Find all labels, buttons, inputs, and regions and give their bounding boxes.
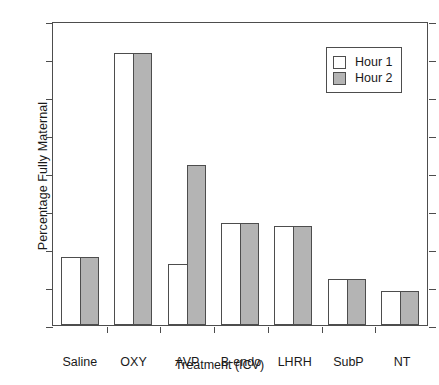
x-tick-4 xyxy=(268,327,269,333)
x-tick-1 xyxy=(107,327,108,333)
bar-subp-hour-1 xyxy=(328,279,347,325)
y-tick-right-70 xyxy=(429,61,436,62)
y-tick-40 xyxy=(46,175,53,176)
y-tick-right-0 xyxy=(429,327,436,328)
bar-group-avp xyxy=(168,23,206,325)
legend-swatch-icon xyxy=(333,72,346,85)
y-tick-50 xyxy=(46,137,53,138)
bar-oxy-hour-1 xyxy=(114,53,133,325)
legend-label: Hour 1 xyxy=(355,55,393,69)
bar-saline-hour-2 xyxy=(80,257,99,325)
bar-b-endo-hour-1 xyxy=(221,223,240,325)
x-tick-6 xyxy=(375,327,376,333)
y-tick-right-80 xyxy=(429,23,436,24)
y-tick-70 xyxy=(46,61,53,62)
y-tick-80 xyxy=(46,23,53,24)
y-tick-right-60 xyxy=(429,99,436,100)
y-tick-right-50 xyxy=(429,137,436,138)
legend-item-hour-1: Hour 1 xyxy=(333,55,393,69)
bar-saline-hour-1 xyxy=(61,257,80,325)
x-tick-3 xyxy=(214,327,215,333)
bar-group-lhrh xyxy=(274,23,312,325)
bar-avp-hour-2 xyxy=(187,165,206,325)
bar-lhrh-hour-1 xyxy=(274,226,293,325)
legend-item-hour-2: Hour 2 xyxy=(333,71,393,85)
y-tick-right-30 xyxy=(429,213,436,214)
y-tick-20 xyxy=(46,251,53,252)
x-tick-5 xyxy=(322,327,323,333)
y-tick-10 xyxy=(46,289,53,290)
legend-label: Hour 2 xyxy=(355,71,393,85)
bar-group-saline xyxy=(61,23,99,325)
y-tick-right-10 xyxy=(429,289,436,290)
x-tick-label-nt: NT xyxy=(357,355,439,369)
x-tick-2 xyxy=(160,327,161,333)
y-tick-30 xyxy=(46,213,53,214)
legend-swatch-icon xyxy=(333,56,346,69)
y-tick-60 xyxy=(46,99,53,100)
y-tick-right-20 xyxy=(429,251,436,252)
bar-chart-figure: Percentage Fully Maternal Treatment (ICV… xyxy=(0,0,439,385)
bar-nt-hour-1 xyxy=(381,291,400,325)
bar-b-endo-hour-2 xyxy=(240,223,259,325)
legend: Hour 1Hour 2 xyxy=(326,47,402,93)
bar-group-b-endo xyxy=(221,23,259,325)
bar-oxy-hour-2 xyxy=(133,53,152,325)
y-axis-title: Percentage Fully Maternal xyxy=(36,51,50,301)
bar-nt-hour-2 xyxy=(400,291,419,325)
y-tick-right-40 xyxy=(429,175,436,176)
bar-lhrh-hour-2 xyxy=(293,226,312,325)
y-tick-0 xyxy=(46,327,53,328)
bar-subp-hour-2 xyxy=(347,279,366,325)
bar-avp-hour-1 xyxy=(168,264,187,325)
bar-group-oxy xyxy=(114,23,152,325)
